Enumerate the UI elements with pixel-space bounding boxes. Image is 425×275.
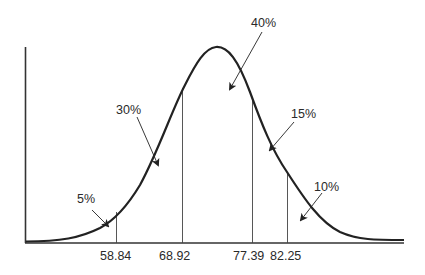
x-tick-68-92: 68.92	[159, 249, 190, 263]
x-tick-58-84: 58.84	[100, 249, 131, 263]
region-label-10: 10%	[314, 180, 339, 194]
normal-distribution-chart: 5% 30% 40% 15% 10% 58.84 68.92 77.39 82.…	[0, 0, 425, 275]
x-tick-82-25: 82.25	[270, 249, 301, 263]
arrow-15pct	[270, 122, 294, 150]
arrow-5pct	[92, 210, 108, 226]
region-label-5: 5%	[77, 192, 95, 206]
normal-curve	[26, 47, 404, 242]
region-label-30: 30%	[116, 103, 141, 117]
x-tick-77-39: 77.39	[233, 249, 264, 263]
arrow-30pct	[137, 117, 158, 165]
region-label-15: 15%	[291, 107, 316, 121]
region-label-40: 40%	[251, 16, 276, 30]
